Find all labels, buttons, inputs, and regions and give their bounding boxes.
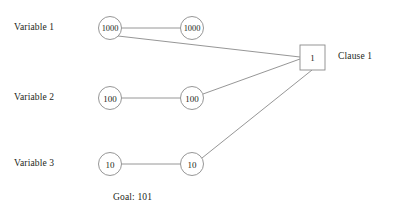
variable-row-label-1: Variable 1 — [14, 22, 54, 32]
node-value: 10 — [188, 160, 198, 170]
nodes-layer: 1000100010010010101 — [99, 17, 326, 176]
variable-1-node-2[interactable]: 1000 — [181, 17, 204, 40]
variable-2-node-2[interactable]: 100 — [181, 87, 204, 110]
variable-row-label-2: Variable 2 — [14, 92, 54, 102]
goal-label: Goal: 101 — [113, 192, 152, 202]
graph-svg: 1000100010010010101 — [0, 0, 400, 216]
variable-3-node-2[interactable]: 10 — [181, 153, 204, 176]
variable-2-node-1[interactable]: 100 — [99, 87, 122, 110]
node-value: 100 — [185, 94, 199, 104]
variable-3-node-1[interactable]: 10 — [99, 153, 122, 176]
clause-label: Clause 1 — [338, 51, 372, 61]
node-value: 1000 — [184, 24, 201, 33]
node-value: 1000 — [102, 24, 119, 33]
clause-node[interactable]: 1 — [300, 45, 325, 70]
diagram-canvas: 1000100010010010101 Variable 1Variable 2… — [0, 0, 400, 216]
node-value: 100 — [103, 94, 117, 104]
variable-1-node-1[interactable]: 1000 — [99, 17, 122, 40]
edges-layer — [118, 28, 312, 164]
variable-row-label-3: Variable 3 — [14, 158, 54, 168]
variable-1-clause-edge — [118, 36, 300, 57]
node-value: 10 — [106, 160, 116, 170]
variable-2-clause-edge — [203, 59, 300, 94]
variable-3-clause-edge — [202, 70, 312, 158]
clause-value: 1 — [310, 53, 315, 63]
